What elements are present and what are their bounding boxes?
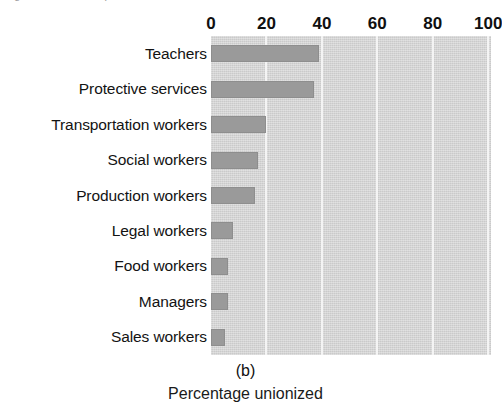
x-tick-label-0: 0 xyxy=(206,14,215,34)
cropped-header-text: Figure cut off at top of scan xyxy=(0,0,491,11)
bar xyxy=(211,45,319,62)
category-label: Social workers xyxy=(0,151,207,169)
category-label: Teachers xyxy=(0,45,207,63)
category-label: Sales workers xyxy=(0,328,207,346)
bar xyxy=(211,187,255,204)
category-label: Managers xyxy=(0,293,207,311)
bar xyxy=(211,222,233,239)
gridline-80 xyxy=(432,36,434,355)
x-axis-tick-labels: 020406080100 xyxy=(0,14,491,36)
bar xyxy=(211,329,225,346)
category-label: Legal workers xyxy=(0,222,207,240)
category-label: Transportation workers xyxy=(0,116,207,134)
x-tick-label-60: 60 xyxy=(368,14,387,34)
category-label: Food workers xyxy=(0,257,207,275)
panel-letter-label: (b) xyxy=(0,362,491,380)
figure-caption: (b) Percentage unionized xyxy=(0,357,491,408)
bottom-crop-mask xyxy=(0,404,491,408)
chart-plot-area xyxy=(211,36,491,355)
gridline-40 xyxy=(321,36,323,355)
bar xyxy=(211,258,228,275)
bar xyxy=(211,81,314,98)
category-label: Production workers xyxy=(0,187,207,205)
bar xyxy=(211,293,228,310)
x-tick-label-40: 40 xyxy=(312,14,331,34)
y-axis-category-labels: TeachersProtective servicesTransportatio… xyxy=(0,36,207,355)
bar xyxy=(211,152,258,169)
cropped-header-text-ghost: Figure cut off at top of scan xyxy=(4,0,155,1)
category-label: Protective services xyxy=(0,80,207,98)
x-axis-title: Percentage unionized xyxy=(0,385,491,403)
x-tick-label-100: 100 xyxy=(474,14,502,34)
bar xyxy=(211,116,266,133)
gridline-60 xyxy=(376,36,378,355)
gridline-100 xyxy=(487,36,489,355)
x-tick-label-20: 20 xyxy=(257,14,276,34)
x-tick-label-80: 80 xyxy=(423,14,442,34)
